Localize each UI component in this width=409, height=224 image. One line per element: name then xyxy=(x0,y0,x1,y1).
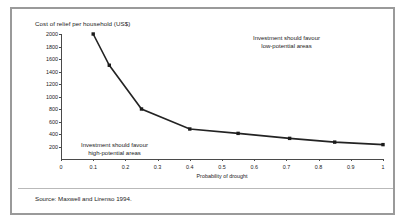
chart-title: Cost of relief per household (US$) xyxy=(35,20,130,27)
x-tick-mark xyxy=(190,159,191,161)
x-tick-mark xyxy=(254,159,255,161)
x-tick-label: 0.1 xyxy=(89,164,97,170)
y-tick-label: 1200 xyxy=(46,81,58,87)
x-tick-label: 0.4 xyxy=(186,164,194,170)
figure-frame: Cost of relief per household (US$) 20040… xyxy=(10,7,395,215)
series-data-point xyxy=(288,137,291,140)
y-tick-label: 200 xyxy=(49,144,58,150)
annotation-high-potential-line1: Investment should favour xyxy=(81,141,148,149)
x-tick-mark xyxy=(222,159,223,161)
series-data-point xyxy=(108,64,111,67)
x-tick-label: 0.5 xyxy=(218,164,226,170)
x-tick-label: 0.7 xyxy=(283,164,291,170)
x-tick-mark xyxy=(93,159,94,161)
y-tick-label: 2000 xyxy=(46,31,58,37)
series-data-point xyxy=(188,127,191,130)
series-polyline xyxy=(93,34,383,145)
x-tick-label: 0.2 xyxy=(122,164,130,170)
x-tick-label: 0.9 xyxy=(347,164,355,170)
x-tick-label: 0.6 xyxy=(250,164,258,170)
x-tick-label: 0.8 xyxy=(315,164,323,170)
annotation-high-potential-line2: high-potential areas xyxy=(81,149,148,157)
source-divider xyxy=(18,188,393,189)
series-data-point xyxy=(236,132,239,135)
source-caption: Source: Maxwell and Lirenso 1994. xyxy=(35,195,132,202)
y-tick-label: 1000 xyxy=(46,94,58,100)
figure-inner-panel: Cost of relief per household (US$) 20040… xyxy=(15,12,390,210)
y-tick-label: 1400 xyxy=(46,69,58,75)
y-tick-label: 1600 xyxy=(46,56,58,62)
x-tick-label: 1 xyxy=(382,164,385,170)
x-tick-label: 0 xyxy=(60,164,63,170)
annotation-low-potential: Investment should favour low-potential a… xyxy=(253,34,320,50)
y-tick-label: 1800 xyxy=(46,44,58,50)
annotation-high-potential: Investment should favour high-potential … xyxy=(81,141,148,157)
y-tick-label: 600 xyxy=(49,119,58,125)
x-tick-label: 0.3 xyxy=(154,164,162,170)
x-tick-mark xyxy=(383,159,384,161)
y-tick-label: 400 xyxy=(49,131,58,137)
annotation-low-potential-line2: low-potential areas xyxy=(253,42,320,50)
series-data-point xyxy=(333,140,336,143)
x-tick-mark xyxy=(286,159,287,161)
series-data-point xyxy=(92,32,95,35)
x-tick-mark xyxy=(319,159,320,161)
annotation-low-potential-line1: Investment should favour xyxy=(253,34,320,42)
x-tick-mark xyxy=(158,159,159,161)
series-data-point xyxy=(381,143,384,146)
x-axis-label: Probability of drought xyxy=(61,173,383,179)
series-data-point xyxy=(140,107,143,110)
x-tick-mark xyxy=(351,159,352,161)
x-tick-mark xyxy=(61,159,62,161)
y-tick-label: 800 xyxy=(49,106,58,112)
x-tick-mark xyxy=(125,159,126,161)
